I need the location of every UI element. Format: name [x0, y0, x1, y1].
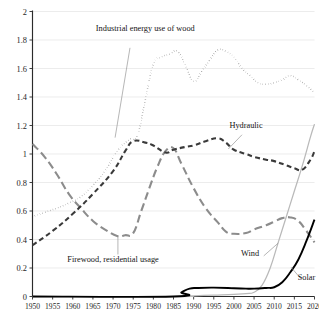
industrial-wood-label: Industrial energy use of wood: [96, 24, 196, 33]
wind-label: Wind: [241, 249, 260, 258]
gridlines-group: [33, 12, 315, 269]
x-tick-label: 1995: [206, 302, 221, 311]
x-axis-tick-labels: 1950195519601965197019751980198519901995…: [25, 302, 319, 311]
y-tick-label: 1.6: [17, 65, 27, 74]
y-tick-label: 1.2: [17, 122, 27, 131]
y-tick-label: 0.6: [17, 207, 27, 216]
x-tick-label: 2005: [246, 302, 261, 311]
x-tick-label: 2010: [267, 302, 282, 311]
x-tick-label: 1970: [105, 302, 120, 311]
x-tick-label: 1975: [126, 302, 141, 311]
y-axis-tick-labels: 00.20.40.60.811.21.41.61.82: [17, 8, 28, 302]
chart-canvas: 00.20.40.60.811.21.41.61.82 195019551960…: [0, 0, 319, 322]
x-tick-label: 1980: [146, 302, 161, 311]
x-tick-label: 1990: [186, 302, 201, 311]
y-tick-label: 0.2: [17, 264, 27, 273]
x-tick-label: 2015: [287, 302, 302, 311]
series-line-industrial-energy-use-of-wood: [33, 49, 315, 217]
y-tick-label: 1.8: [17, 36, 27, 45]
x-tick-label: 2020: [307, 302, 319, 311]
y-tick-label: 0.4: [17, 236, 28, 245]
series-line-firewood-residential-usage: [33, 144, 315, 242]
y-tick-label: 1.4: [17, 93, 28, 102]
x-tick-label: 1960: [65, 302, 80, 311]
firewood-label: Firewood, residential usage: [67, 255, 159, 264]
x-tick-label: 1965: [85, 302, 100, 311]
annotation-leaders-group: [115, 48, 301, 279]
energy-sources-line-chart: 00.20.40.60.811.21.41.61.82 195019551960…: [0, 0, 319, 322]
x-tick-label: 2000: [226, 302, 241, 311]
y-tick-label: 0: [23, 293, 27, 302]
x-tick-label: 1985: [166, 302, 181, 311]
hydraulic-label: Hydraulic: [229, 121, 262, 130]
industrial-wood-leader-line: [115, 48, 130, 138]
y-tick-label: 1: [23, 150, 27, 159]
x-tick-label: 1955: [45, 302, 60, 311]
solar-label: Solar: [298, 273, 316, 282]
x-tick-label: 1950: [25, 302, 40, 311]
hydraulic-leader-line: [228, 135, 242, 149]
y-tick-label: 0.8: [17, 179, 27, 188]
y-tick-label: 2: [23, 8, 27, 17]
